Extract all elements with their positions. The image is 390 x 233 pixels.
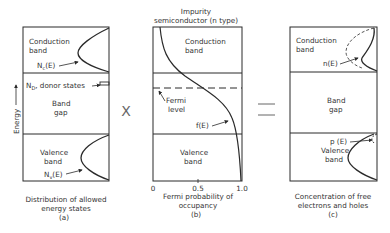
tick-label-0: 0 [151,184,156,193]
conduction-label-line1: Conduction [29,37,70,46]
caption-a-line3: (a) [59,213,69,222]
panel-c: Conduction band n(E) Band gap p (E) Vale… [290,27,377,219]
conduction-label-line1: Conduction [185,37,226,46]
caption-c-line3: (c) [328,210,338,219]
nc-arrow [59,62,78,66]
nc-label: Nc(E) [37,61,55,71]
energy-axis-label: Energy [12,108,21,134]
panel-b-title-line1: Impurity [181,7,212,16]
gap-label-line2: gap [329,105,343,114]
valence-label-line1: Valence [40,148,69,157]
caption-c-line1: Concentration of free [295,192,372,201]
conduction-label-line2: band [296,45,314,54]
gap-label-line2: gap [54,108,68,117]
band-diagram: Conduction band Nc(E) ND, donor states B… [0,0,390,233]
multiply-operator: X [121,103,131,119]
equals-operator [258,104,275,115]
fermi-label-line1: Fermi [166,96,186,105]
nv-arrow [66,170,82,174]
valence-label-line2: band [44,157,62,166]
donor-states-bar [100,82,109,85]
fermi-level-pointer [159,91,165,101]
tick-label-1-0: 1.0 [236,184,248,193]
gap-label-line1: Band [52,99,70,108]
nc-curve [78,28,109,72]
donor-label: ND, donor states [26,81,85,91]
caption-b-line1: Fermi probability of [163,192,233,201]
valence-label-line1: Valence [180,148,209,157]
conduction-label-line2: band [29,46,47,55]
valence-label-line1: Valence [321,146,350,155]
panel-a: Conduction band Nc(E) ND, donor states B… [12,27,109,222]
panel-b: Impurity semiconductor (n type) Conducti… [151,7,248,219]
nv-curve [81,135,109,180]
panel-b-title-line2: semiconductor (n type) [154,16,238,25]
fe-arrow [212,121,228,126]
pe-curve [372,134,377,143]
valence-label-line2: band [184,157,202,166]
conduction-label-line2: band [185,46,203,55]
ne-curve [362,28,377,71]
nv-label: Nv(E) [44,170,63,180]
ne-label: n(E) [323,59,338,68]
caption-a-line2: energy states [41,204,91,213]
pe-label: p (E) [330,137,347,146]
caption-b-line2: occupancy [179,201,218,210]
donor-arrow [92,85,100,86]
caption-b-line3: (b) [191,210,201,219]
valence-label-line2: band [325,155,343,164]
conduction-label-line1: Conduction [296,36,337,45]
nc-reference-dashed [346,28,374,68]
caption-a-line1: Distribution of allowed [25,195,106,204]
gap-label-line1: Band [327,96,345,105]
fermi-label-line2: level [168,105,185,114]
caption-c-line2: electrons and holes [298,201,369,210]
fe-label: f(E) [196,121,209,130]
